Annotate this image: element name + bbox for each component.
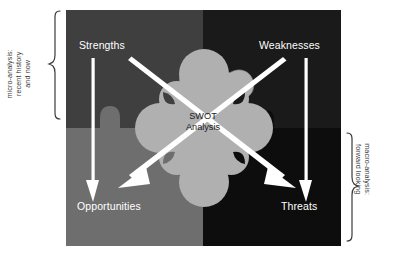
arrow-strengths-to-opportunities	[86, 58, 99, 202]
label-threats: Threats	[281, 200, 317, 212]
brace-right	[347, 133, 358, 241]
center-label: SWOT Analysis	[163, 111, 243, 132]
label-opportunities: Opportunities	[77, 200, 141, 212]
center-label-line1: SWOT	[163, 111, 243, 122]
arrow-weaknesses-to-threats	[299, 58, 312, 202]
label-strengths: Strengths	[79, 39, 125, 51]
label-weaknesses: Weaknesses	[259, 39, 320, 51]
center-label-line2: Analysis	[163, 122, 243, 133]
swot-diagram: micro-analysis: recent history and now m…	[0, 0, 394, 256]
puzzle-notch-left	[100, 106, 120, 128]
brace-left	[49, 11, 60, 119]
